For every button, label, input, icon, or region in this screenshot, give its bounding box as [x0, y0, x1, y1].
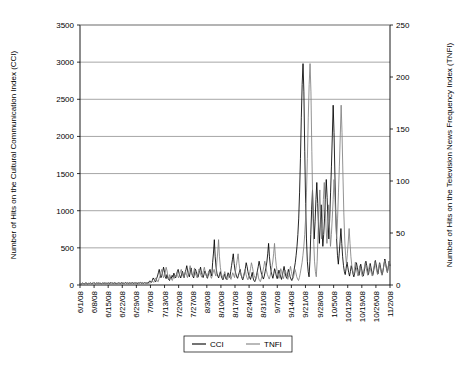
x-axis-tick-label: 7/13/08: [161, 290, 170, 317]
x-axis-tick-label: 6/1/08: [76, 290, 85, 313]
y-axis-right-tick-label: 50: [396, 229, 405, 238]
x-axis-tick-label: 10/26/08: [372, 290, 381, 322]
y-axis-right-tick-label: 150: [396, 125, 410, 134]
x-axis-tick-label: 8/31/08: [259, 290, 268, 317]
y-axis-right-tick-label: 0: [396, 281, 401, 290]
x-axis-tick-label: 9/7/08: [273, 290, 282, 313]
x-axis-tick-label: 8/10/08: [217, 290, 226, 317]
y-axis-right-title: Number of Hits on the Television News Fr…: [445, 42, 454, 267]
y-axis-left-tick-label: 0: [70, 281, 75, 290]
x-axis-tick-label: 6/15/08: [104, 290, 113, 317]
y-axis-left-tick-label: 500: [61, 244, 75, 253]
x-axis-tick-label: 9/21/08: [301, 290, 310, 317]
y-axis-right-tick-label: 250: [396, 21, 410, 30]
dual-axis-line-chart: 0500100015002000250030003500 05010015020…: [0, 0, 468, 366]
legend: CCITNFI: [184, 336, 292, 352]
x-axis-tick-label: 9/28/08: [316, 290, 325, 317]
x-axis-tick-label: 11/2/08: [386, 290, 395, 317]
x-axis-tick-label: 8/17/08: [231, 290, 240, 317]
x-axis-tick-label: 10/19/08: [358, 290, 367, 322]
y-axis-left-tick-label: 1000: [56, 207, 74, 216]
legend-label-cci: CCI: [210, 340, 224, 349]
y-axis-left-tick-label: 2500: [56, 95, 74, 104]
x-axis-tick-label: 8/3/08: [203, 290, 212, 313]
y-axis-left-tick-label: 2000: [56, 132, 74, 141]
x-axis-tick-label: 6/8/08: [90, 290, 99, 313]
x-axis-tick-label: 7/20/08: [175, 290, 184, 317]
x-axis-tick-label: 8/24/08: [245, 290, 254, 317]
legend-label-tnfi: TNFI: [264, 340, 282, 349]
y-axis-left-title: Number of Hits on the Cultural Communica…: [9, 50, 18, 259]
y-axis-left-tick-label: 1500: [56, 170, 74, 179]
chart-container: 0500100015002000250030003500 05010015020…: [0, 0, 468, 366]
x-axis-tick-label: 9/14/08: [287, 290, 296, 317]
x-axis-tick-label: 7/27/08: [189, 290, 198, 317]
y-axis-left-tick-label: 3000: [56, 58, 74, 67]
x-axis-tick-label: 6/22/08: [118, 290, 127, 317]
x-axis-tick-label: 10/12/08: [344, 290, 353, 322]
y-axis-right-tick-label: 200: [396, 73, 410, 82]
y-axis-left-tick-label: 3500: [56, 21, 74, 30]
x-axis-tick-label: 7/6/08: [146, 290, 155, 313]
x-axis-tick-label: 6/29/08: [132, 290, 141, 317]
x-axis-tick-label: 10/5/08: [330, 290, 339, 317]
y-axis-right-tick-label: 100: [396, 177, 410, 186]
